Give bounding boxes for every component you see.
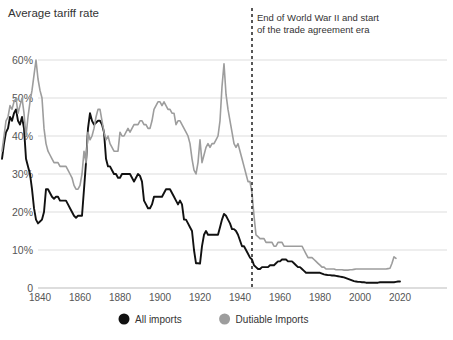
legend-label-0: All imports — [135, 314, 182, 325]
annotation-text-line2: of the trade agreement era — [257, 24, 370, 35]
y-tick-label-10: 10% — [12, 244, 33, 256]
x-tick-label-2020: 2020 — [389, 292, 412, 303]
legend-marker-1 — [219, 314, 230, 325]
x-tick-label-1940: 1940 — [229, 292, 252, 303]
x-tick-label-1960: 1960 — [269, 292, 292, 303]
x-tick-label-1920: 1920 — [189, 292, 212, 303]
x-tick-label-2000: 2000 — [349, 292, 372, 303]
y-tick-label-20: 20% — [12, 206, 33, 218]
y-tick-label-60: 60% — [12, 54, 33, 66]
chart-title: Average tariff rate — [8, 7, 99, 19]
legend-label-1: Dutiable Imports — [236, 314, 309, 325]
x-tick-label-1860: 1860 — [69, 292, 92, 303]
average-tariff-rate-chart: Average tariff rate 010%20%30%40%50%60% … — [0, 0, 453, 340]
chart-container: Average tariff rate 010%20%30%40%50%60% … — [0, 0, 453, 340]
annotation-text-line1: End of World War II and start — [257, 12, 379, 23]
x-tick-label-1840: 1840 — [29, 292, 52, 303]
x-tick-label-1880: 1880 — [109, 292, 132, 303]
x-tick-label-1980: 1980 — [309, 292, 332, 303]
y-tick-label-40: 40% — [12, 130, 33, 142]
legend-marker-0 — [119, 314, 130, 325]
x-tick-label-1900: 1900 — [149, 292, 172, 303]
